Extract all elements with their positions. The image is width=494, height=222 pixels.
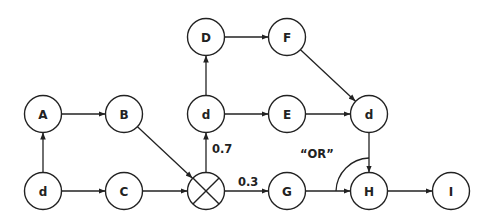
node-label: F (283, 31, 291, 45)
node-label: H (364, 185, 374, 199)
node-label: d (202, 108, 211, 122)
probability-label-right: 0.3 (238, 175, 258, 189)
node-C: C (106, 173, 143, 210)
node-label: A (38, 108, 48, 122)
node-label: I (449, 185, 453, 199)
node-d_mid: d (188, 96, 225, 133)
flow-diagram: “OR” 0.7 0.3 DFABdEddCGHI (0, 0, 494, 222)
node-H: H (351, 173, 388, 210)
node-F: F (269, 19, 306, 56)
node-D: D (188, 19, 225, 56)
node-label: d (365, 108, 374, 122)
node-label: E (283, 108, 291, 122)
node-label: G (282, 185, 292, 199)
or-join-label: “OR” (300, 147, 334, 161)
node-A: A (25, 96, 62, 133)
node-E: E (269, 96, 306, 133)
node-label: B (119, 108, 128, 122)
edge-F-to-d_right (300, 50, 355, 102)
node-I: I (433, 173, 470, 210)
node-label: C (120, 185, 129, 199)
node-d_right: d (351, 96, 388, 133)
probability-label-up: 0.7 (212, 142, 232, 156)
edge-B-to-X (137, 127, 192, 179)
node-label: D (201, 31, 211, 45)
xor-gateway-node (188, 173, 225, 210)
node-label: d (39, 185, 48, 199)
node-d_bottom: d (25, 173, 62, 210)
node-G: G (269, 173, 306, 210)
node-B: B (106, 96, 143, 133)
